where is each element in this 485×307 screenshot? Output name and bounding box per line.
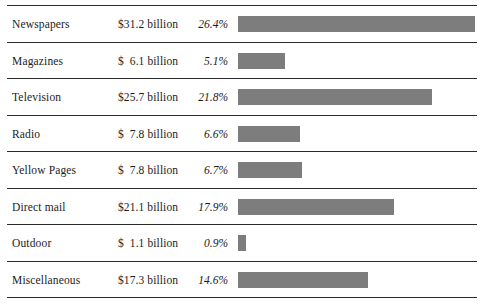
table-row: Yellow Pages $ 7.8 billion 6.7% xyxy=(0,152,485,188)
table-row: Outdoor $ 1.1 billion 0.9% xyxy=(0,225,485,261)
share-percent: 5.1% xyxy=(186,43,228,79)
medium-label: Magazines xyxy=(12,43,63,79)
bar-track xyxy=(238,272,478,288)
medium-label: Miscellaneous xyxy=(12,262,80,298)
share-bar xyxy=(238,272,368,288)
share-bar xyxy=(238,89,432,105)
bar-track xyxy=(238,199,478,215)
share-bar xyxy=(238,199,394,215)
medium-label: Newspapers xyxy=(12,6,70,42)
table-row: Radio $ 7.8 billion 6.6% xyxy=(0,116,485,152)
expenditure-value: $ 1.1 billion xyxy=(118,225,184,261)
bar-track xyxy=(238,16,478,32)
bar-track xyxy=(238,126,478,142)
share-percent: 6.6% xyxy=(186,116,228,152)
share-bar xyxy=(238,126,300,142)
advertising-expenditure-table: Newspapers $31.2 billion 26.4% Magazines… xyxy=(0,0,485,307)
bar-track xyxy=(238,53,478,69)
expenditure-value: $21.1 billion xyxy=(118,189,184,225)
share-bar xyxy=(238,235,246,251)
medium-label: Yellow Pages xyxy=(12,152,76,188)
table-row: Newspapers $31.2 billion 26.4% xyxy=(0,6,485,42)
expenditure-value: $ 6.1 billion xyxy=(118,43,184,79)
share-bar xyxy=(238,162,302,178)
table-row: Television $25.7 billion 21.8% xyxy=(0,79,485,115)
expenditure-value: $ 7.8 billion xyxy=(118,152,184,188)
share-percent: 26.4% xyxy=(186,6,228,42)
table-row: Miscellaneous $17.3 billion 14.6% xyxy=(0,262,485,298)
share-percent: 14.6% xyxy=(186,262,228,298)
bar-track xyxy=(238,235,478,251)
bar-track xyxy=(238,89,478,105)
table-row: Direct mail $21.1 billion 17.9% xyxy=(0,189,485,225)
share-percent: 17.9% xyxy=(186,189,228,225)
share-percent: 0.9% xyxy=(186,225,228,261)
share-bar xyxy=(238,16,475,32)
medium-label: Outdoor xyxy=(12,225,51,261)
medium-label: Radio xyxy=(12,116,40,152)
share-percent: 21.8% xyxy=(186,79,228,115)
medium-label: Television xyxy=(12,79,61,115)
expenditure-value: $31.2 billion xyxy=(118,6,184,42)
bar-track xyxy=(238,162,478,178)
medium-label: Direct mail xyxy=(12,189,66,225)
share-percent: 6.7% xyxy=(186,152,228,188)
expenditure-value: $ 7.8 billion xyxy=(118,116,184,152)
share-bar xyxy=(238,53,285,69)
expenditure-value: $17.3 billion xyxy=(118,262,184,298)
table-row: Magazines $ 6.1 billion 5.1% xyxy=(0,43,485,79)
expenditure-value: $25.7 billion xyxy=(118,79,184,115)
